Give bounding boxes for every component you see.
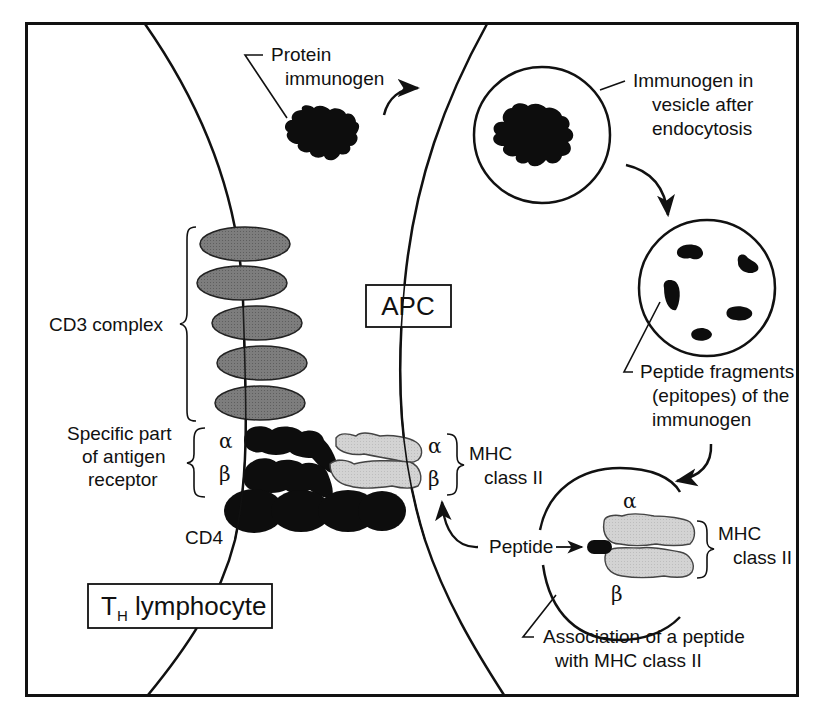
- association-label-2: with MHC class II: [554, 650, 702, 671]
- peptide-fragment-3: [664, 280, 680, 310]
- cd4-label: CD4: [185, 527, 223, 548]
- antigen-presentation-diagram: Protein immunogen Immunogen in vesicle a…: [0, 0, 825, 714]
- protein-immunogen-blob: [285, 105, 359, 160]
- cd3-subunit-1: [200, 227, 290, 261]
- vesicle-peptide-fragments: Peptide fragments (epitopes) of the immu…: [624, 220, 794, 430]
- endocytosis-arrow: [384, 88, 418, 115]
- vesicle-2-label-2: (epitopes) of the: [652, 385, 789, 406]
- cd4-domain-4: [358, 491, 406, 531]
- mhc-surface-alpha-chain: [336, 433, 422, 462]
- vesicle-1-label-1: Immunogen in: [633, 70, 753, 91]
- vesicle-3-beta-label: β: [611, 582, 623, 606]
- vesicle-3-mhc-alpha-chain: [604, 514, 695, 546]
- vesicle-endocytosis: Immunogen in vesicle after endocytosis: [474, 67, 754, 203]
- vesicle-1-label-2: vesicle after: [652, 94, 754, 115]
- association-label-1: Association of a peptide: [543, 626, 745, 647]
- vesicle-2-label-3: immunogen: [652, 409, 751, 430]
- vesicle-1-immunogen-blob: [493, 103, 573, 166]
- apc-label: APC: [381, 291, 434, 321]
- mhc-surface-alpha-label: α: [428, 434, 442, 458]
- peptide-to-surface-arrow: [442, 502, 478, 547]
- mhc-surface-label-2: class II: [484, 467, 543, 488]
- apc-label-box: APC: [366, 285, 451, 327]
- vesicle-3-peptide: [587, 540, 612, 554]
- vesicle-3-mhc-beta-chain: [605, 547, 693, 577]
- antigen-receptor-bracket: [187, 428, 205, 497]
- antigen-receptor-label-2: of antigen: [82, 446, 165, 467]
- loading-arrow: [677, 444, 711, 481]
- apc-membrane: [400, 24, 504, 695]
- mhc-surface-bracket: [447, 434, 464, 495]
- tcr-alpha-label: α: [219, 429, 233, 453]
- t-cell-receptor: α β Specific part of antigen receptor: [67, 423, 345, 497]
- vesicle-3-mhc-bracket: [697, 521, 714, 578]
- cd3-complex: CD3 complex: [49, 227, 307, 421]
- cd3-subunit-4: [217, 346, 307, 380]
- cd3-complex-label: CD3 complex: [49, 314, 164, 335]
- vesicle-3-mhc-label-1: MHC: [718, 523, 761, 544]
- peptide-fragment-1: [677, 245, 703, 260]
- antigen-receptor-label-1: Specific part: [67, 423, 172, 444]
- cd3-subunit-5: [215, 386, 305, 420]
- tcr-beta-label: β: [219, 462, 231, 486]
- mhc-surface-beta-label: β: [428, 467, 440, 491]
- vesicle-1-leader: [600, 81, 625, 90]
- vesicle-3-mhc-label-2: class II: [733, 547, 792, 568]
- vesicle-mhc-association: α β MHC class II Association of a peptid…: [523, 468, 792, 671]
- vesicle-1-label-3: endocytosis: [652, 118, 752, 139]
- mhc-surface-label-1: MHC: [469, 443, 512, 464]
- peptide-fragment-5: [691, 328, 712, 341]
- processing-arrow: [626, 165, 668, 215]
- antigen-receptor-label-3: receptor: [88, 469, 158, 490]
- th-lymphocyte-label-box: TH lymphocyte: [88, 584, 272, 628]
- cd4-molecule: CD4: [185, 489, 406, 548]
- protein-immunogen-label-1: Protein: [271, 44, 331, 65]
- vesicle-3-alpha-label: α: [623, 489, 637, 513]
- cd3-subunit-3: [212, 306, 302, 340]
- peptide-annotation: Peptide: [442, 502, 582, 557]
- peptide-fragment-4: [726, 306, 752, 320]
- cd3-bracket: [180, 227, 196, 421]
- peptide-label: Peptide: [489, 536, 553, 557]
- mhc-class-ii-surface: α β MHC class II: [330, 433, 543, 495]
- cd3-subunit-2: [197, 266, 287, 300]
- protein-immunogen: Protein immunogen: [245, 44, 384, 160]
- vesicle-2-label-1: Peptide fragments: [640, 361, 794, 382]
- peptide-fragment-2: [738, 255, 759, 274]
- protein-immunogen-label-2: immunogen: [285, 68, 384, 89]
